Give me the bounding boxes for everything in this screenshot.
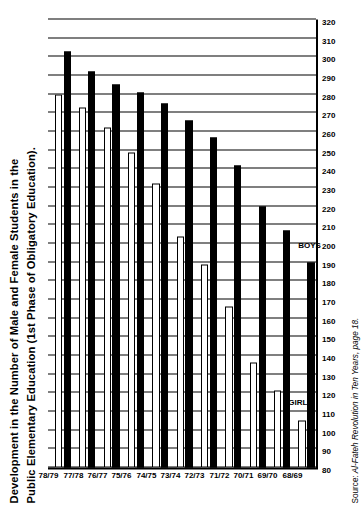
- value-axis-tick-label: 180: [322, 278, 335, 287]
- gridline: [48, 18, 316, 19]
- value-axis-tick-label: 200: [322, 241, 335, 250]
- source-text: Al-Fateh Revolution in Ten Years, page 1…: [351, 317, 360, 473]
- value-axis-tick-label: 270: [322, 110, 335, 119]
- category-label-78-79: 78/79: [39, 471, 59, 480]
- chart-title-line-1: Development in the Number of Male and Fe…: [8, 158, 20, 503]
- value-axis-tick-label: 100: [322, 428, 335, 437]
- chart-title: Development in the Number of Male and Fe…: [6, 83, 40, 503]
- value-axis-tick-label: 120: [322, 390, 335, 399]
- value-axis-tick-label: 150: [322, 334, 335, 343]
- value-axis-tick-label: 190: [322, 260, 335, 269]
- bar-girls-78-79: [55, 94, 62, 467]
- bar-boys-73-74: [185, 120, 192, 467]
- bar-girls-72-73: [201, 264, 208, 467]
- plot-area: BOYSGIRLS: [48, 21, 316, 469]
- bar-girls-77-78: [79, 107, 86, 467]
- value-axis-tick-label: 230: [322, 185, 335, 194]
- value-axis-tick-label: 210: [322, 222, 335, 231]
- category-label-76-77: 76/77: [87, 471, 107, 480]
- bar-boys-70-71: [259, 206, 266, 467]
- bar-girls-74-75: [152, 183, 159, 467]
- value-axis-tick-label: 90: [322, 446, 331, 455]
- value-axis-tick-label: 160: [322, 316, 335, 325]
- value-axis-tick-label: 80: [322, 465, 331, 474]
- chart-figure: Development in the Number of Male and Fe…: [0, 0, 362, 529]
- value-axis-tick-label: 310: [322, 36, 335, 45]
- value-axis-tick-label: 320: [322, 17, 335, 26]
- value-axis-tick-label: 220: [322, 204, 335, 213]
- bar-girls-71-72: [225, 306, 232, 467]
- series-annotation-girls: GIRLS: [288, 398, 312, 407]
- category-label-68-69: 68/69: [282, 471, 302, 480]
- category-label-72-73: 72/73: [185, 471, 205, 480]
- chart-figure-rotation-wrapper: Development in the Number of Male and Fe…: [0, 0, 362, 529]
- value-axis-tick-label: 130: [322, 372, 335, 381]
- value-axis-tick-label: 110: [322, 409, 335, 418]
- source-note: Source: Al-Fateh Revolution in Ten Years…: [351, 317, 360, 503]
- value-axis-tick-label: 290: [322, 73, 335, 82]
- value-axis-tick-label: 300: [322, 54, 335, 63]
- bar-girls-70-71: [250, 362, 257, 467]
- category-label-75-76: 75/76: [112, 471, 132, 480]
- bar-girls-76-77: [104, 127, 111, 467]
- bar-boys-76-77: [112, 84, 119, 467]
- category-axis-line: [316, 19, 318, 469]
- category-label-74-75: 74/75: [136, 471, 156, 480]
- value-axis-tick-label: 240: [322, 166, 335, 175]
- value-axis-tick-label: 140: [322, 353, 335, 362]
- bar-boys-78-79: [64, 51, 71, 467]
- source-label: Source:: [351, 475, 360, 503]
- bar-boys-72-73: [210, 137, 217, 467]
- value-axis-tick-label: 280: [322, 92, 335, 101]
- bar-boys-75-76: [137, 92, 144, 467]
- bar-girls-69-70: [274, 390, 281, 467]
- chart-title-line-2: Public Elementary Education (1st Phase o…: [23, 83, 40, 503]
- bar-boys-69-70: [283, 230, 290, 467]
- bar-girls-73-74: [177, 236, 184, 467]
- value-axis-tick-label: 250: [322, 148, 335, 157]
- category-label-70-71: 70/71: [234, 471, 254, 480]
- category-label-69-70: 69/70: [258, 471, 278, 480]
- bar-boys-71-72: [234, 165, 241, 467]
- bar-boys-74-75: [161, 103, 168, 467]
- bar-series-group: BOYSGIRLS: [48, 21, 316, 467]
- bar-boys-68-69: [307, 262, 314, 467]
- category-axis-labels: 68/6969/7070/7171/7272/7373/7474/7575/76…: [48, 471, 316, 529]
- bar-boys-77-78: [88, 71, 95, 467]
- category-label-71-72: 71/72: [209, 471, 229, 480]
- value-axis-tick-label: 170: [322, 297, 335, 306]
- category-label-73-74: 73/74: [160, 471, 180, 480]
- category-label-77-78: 77/78: [63, 471, 83, 480]
- bar-girls-75-76: [128, 152, 135, 467]
- value-axis-tick-label: 260: [322, 129, 335, 138]
- bar-girls-68-69: [298, 420, 305, 467]
